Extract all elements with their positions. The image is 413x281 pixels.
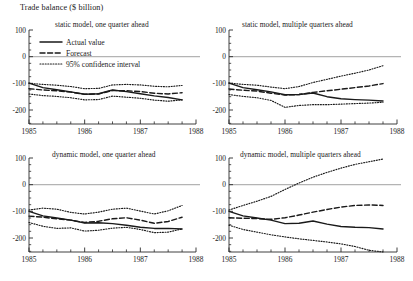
panel-dynamic-one-quarter: dynamic model, one quarter ahead 1000-10… <box>0 148 207 274</box>
svg-text:0: 0 <box>222 52 226 61</box>
plot-dynamic-one-quarter: 1000-100-2001985198619871988 <box>0 148 207 274</box>
svg-text:1988: 1988 <box>189 127 204 136</box>
svg-text:1987: 1987 <box>334 127 349 136</box>
legend-label-actual: Actual value <box>66 38 105 47</box>
figure-title: Trade balance ($ billion) <box>20 3 103 12</box>
series-line <box>229 95 383 108</box>
legend-label-ci: 95% confidence interval <box>66 60 140 69</box>
svg-text:0: 0 <box>22 52 26 61</box>
svg-text:100: 100 <box>215 154 226 163</box>
series-line <box>229 225 383 252</box>
svg-text:100: 100 <box>215 26 226 35</box>
series-line <box>29 205 182 214</box>
panel-title-static-multiple-quarters: static model, multiple quarters ahead <box>242 20 353 29</box>
svg-text:100: 100 <box>15 154 26 163</box>
svg-text:0: 0 <box>22 180 26 189</box>
series-line <box>29 83 182 88</box>
svg-text:1988: 1988 <box>390 255 405 264</box>
svg-text:1988: 1988 <box>390 127 405 136</box>
plot-dynamic-multiple-quarters: 1000-100-2001985198619871988 <box>207 148 413 274</box>
panel-dynamic-multiple-quarters: dynamic model, multiple quarters ahead 1… <box>207 148 413 274</box>
series-line <box>229 83 383 101</box>
svg-text:-100: -100 <box>212 79 226 88</box>
svg-text:-200: -200 <box>212 106 226 115</box>
svg-text:-100: -100 <box>212 207 226 216</box>
svg-text:-100: -100 <box>12 207 26 216</box>
svg-text:1986: 1986 <box>77 127 92 136</box>
svg-text:-200: -200 <box>212 234 226 243</box>
series-line <box>229 66 383 89</box>
svg-text:1987: 1987 <box>133 127 148 136</box>
svg-text:1986: 1986 <box>77 255 92 264</box>
svg-text:100: 100 <box>15 26 26 35</box>
svg-text:-200: -200 <box>12 106 26 115</box>
svg-text:1985: 1985 <box>22 127 37 136</box>
svg-text:-200: -200 <box>12 234 26 243</box>
series-line <box>29 83 182 100</box>
svg-text:1986: 1986 <box>278 255 293 264</box>
svg-text:-100: -100 <box>12 79 26 88</box>
panel-title-static-one-quarter: static model, one quarter ahead <box>55 20 149 29</box>
panel-static-multiple-quarters: static model, multiple quarters ahead 10… <box>207 12 413 140</box>
plot-static-one-quarter: 1000-100-2001985198619871988Actual value… <box>0 12 207 140</box>
legend-label-forecast: Forecast <box>66 49 93 58</box>
panel-static-one-quarter: static model, one quarter ahead 1000-100… <box>0 12 207 140</box>
svg-text:1988: 1988 <box>189 255 204 264</box>
figure-root: Trade balance ($ billion) static model, … <box>0 0 413 281</box>
series-line <box>29 94 182 101</box>
panel-title-dynamic-one-quarter: dynamic model, one quarter ahead <box>52 150 156 159</box>
plot-static-multiple-quarters: 1000-100-2001985198619871988 <box>207 12 413 140</box>
svg-text:1985: 1985 <box>222 127 237 136</box>
svg-text:1985: 1985 <box>22 255 37 264</box>
svg-text:1985: 1985 <box>222 255 237 264</box>
svg-text:1987: 1987 <box>334 255 349 264</box>
svg-text:1986: 1986 <box>278 127 293 136</box>
panel-title-dynamic-multiple-quarters: dynamic model, multiple quarters ahead <box>240 150 361 159</box>
svg-text:1987: 1987 <box>133 255 148 264</box>
series-line <box>29 223 182 233</box>
svg-text:0: 0 <box>222 180 226 189</box>
